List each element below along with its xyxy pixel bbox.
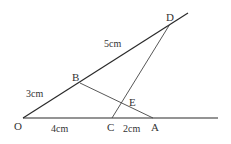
- point-label-a: A: [151, 121, 159, 133]
- point-label-o: O: [14, 120, 22, 132]
- ray-od: [23, 13, 188, 118]
- length-label-ca: 2cm: [123, 123, 140, 134]
- point-label-e: E: [129, 96, 136, 108]
- point-label-c: C: [107, 121, 114, 133]
- point-label-b: B: [72, 71, 79, 83]
- point-label-d: D: [166, 11, 174, 23]
- length-label-oc: 4cm: [51, 123, 68, 134]
- length-label-bd: 5cm: [104, 38, 121, 49]
- segment-ba: [80, 83, 153, 118]
- geometry-figure: O B D C A E 3cm 5cm 4cm 2cm: [0, 0, 231, 144]
- length-label-ob: 3cm: [26, 88, 43, 99]
